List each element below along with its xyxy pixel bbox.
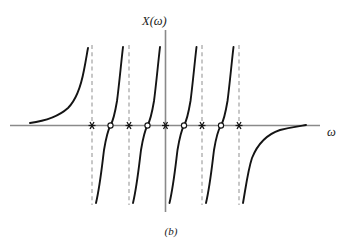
y-axis-label: X(ω) xyxy=(141,14,167,28)
marker-circle-minus0p5 xyxy=(145,123,150,128)
spectrum-plot: X(ω) ω (b) xyxy=(0,0,357,252)
marker-circle-plus1p5 xyxy=(218,123,223,128)
marker-circle-minus1p5 xyxy=(108,123,113,128)
figure-caption: (b) xyxy=(165,225,178,238)
figure-container: X(ω) ω (b) xyxy=(0,0,357,252)
marker-circle-plus0p5 xyxy=(181,123,186,128)
x-axis-label: ω xyxy=(327,125,336,139)
